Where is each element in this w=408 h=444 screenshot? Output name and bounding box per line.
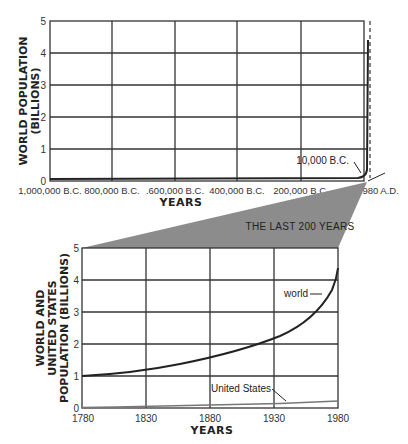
ytick: 4 xyxy=(73,275,79,286)
top-chart: 0 1 2 3 4 5 1,000,000 B.C. 800,000 B.C. … xyxy=(17,16,399,209)
bottom-xticks: 1780 1830 1880 1930 1980 xyxy=(72,413,350,424)
population-figure: 0 1 2 3 4 5 1,000,000 B.C. 800,000 B.C. … xyxy=(0,0,408,444)
xtick: .600,000 B.C. xyxy=(146,185,204,196)
ytick: 2 xyxy=(73,339,79,350)
xtick: 1930 xyxy=(263,413,286,424)
world-label: world xyxy=(283,288,308,299)
ytick: 1 xyxy=(73,371,79,382)
us-label: United States xyxy=(211,383,271,394)
ytick: 3 xyxy=(73,307,79,318)
ytick: 4 xyxy=(40,48,46,59)
ytick: 5 xyxy=(40,16,46,27)
bottom-x-axis-title: YEARS xyxy=(190,424,234,437)
ytick: 5 xyxy=(73,243,79,254)
ylabel-line: (BILLIONS) xyxy=(29,67,42,134)
xtick: 1880 xyxy=(199,413,222,424)
ytick: 1 xyxy=(40,144,46,155)
xtick: 1780 xyxy=(72,413,95,424)
annotation-10000bc: 10,000 B.C. xyxy=(296,155,349,166)
bottom-yticks: 0 1 2 3 4 5 xyxy=(73,243,79,414)
ylabel-line: POPULATION (BILLIONS) xyxy=(58,253,71,403)
xtick: 800,000 B.C. xyxy=(84,185,139,196)
xtick: 400,000 B.C. xyxy=(209,185,264,196)
xtick: 1830 xyxy=(135,413,158,424)
xtick: 1,000,000 B.C. xyxy=(18,185,81,196)
bottom-chart: world United States 0 1 2 3 4 5 1780 183… xyxy=(34,243,350,437)
top-y-axis-title: WORLD POPULATION (BILLIONS) xyxy=(17,36,42,165)
top-x-axis-title: YEARS xyxy=(159,196,203,209)
xtick: 1980 xyxy=(327,413,350,424)
annotation-pointer xyxy=(354,162,361,173)
bottom-y-axis-title: WORLD AND UNITED STATES POPULATION (BILL… xyxy=(34,253,71,403)
banner-last-200-years: THE LAST 200 YEARS xyxy=(246,221,355,232)
